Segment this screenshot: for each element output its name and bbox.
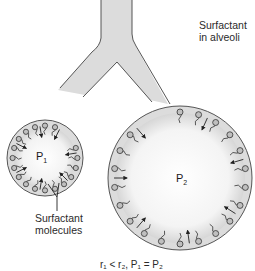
molecule-head xyxy=(32,186,37,191)
molecule-head xyxy=(242,166,248,172)
molecule-head xyxy=(69,174,74,179)
molecule-head xyxy=(52,125,57,130)
molecule-head xyxy=(112,166,118,172)
molecule-head xyxy=(242,184,248,190)
molecule-head xyxy=(117,202,123,208)
molecule-head xyxy=(10,155,15,160)
molecule-head xyxy=(52,186,57,191)
title-line-1: Surfactant xyxy=(199,19,247,31)
molecule-head xyxy=(23,182,28,187)
molecule-head xyxy=(227,218,233,224)
molecule-head xyxy=(73,145,78,150)
molecule-head xyxy=(75,155,80,160)
callout-line-1: Surfactant xyxy=(35,212,83,224)
equation-label: r₁ < r₂, P₁ = P₂ xyxy=(100,259,163,271)
molecule-head xyxy=(16,136,21,141)
p2-label: P2 xyxy=(176,172,187,186)
molecule-head xyxy=(237,148,243,154)
molecule-head xyxy=(42,123,47,128)
molecule-head xyxy=(32,125,37,130)
molecule-head xyxy=(237,202,243,208)
surfactant-molecules-label: Surfactant molecules xyxy=(35,212,83,236)
molecule-head xyxy=(177,241,183,247)
p2-subscript: 2 xyxy=(183,179,187,186)
molecule-head xyxy=(213,119,219,125)
molecule-head xyxy=(158,238,164,244)
p1-subscript: 1 xyxy=(43,157,47,164)
molecule-head xyxy=(12,165,17,170)
molecule-head xyxy=(73,165,78,170)
molecule-head xyxy=(196,112,202,118)
molecule-head xyxy=(117,148,123,154)
molecule-head xyxy=(141,231,147,237)
airway xyxy=(58,0,170,104)
molecule-head xyxy=(112,184,118,190)
molecule-head xyxy=(177,109,183,115)
p1-label: P1 xyxy=(36,150,47,164)
surfactant-in-alveoli-label: Surfactant in alveoli xyxy=(199,19,247,43)
molecule-head xyxy=(23,129,28,134)
molecule-head xyxy=(127,218,133,224)
molecule-head xyxy=(196,238,202,244)
molecule-head xyxy=(61,182,66,187)
molecule-head xyxy=(42,188,47,193)
molecule-head xyxy=(213,231,219,237)
molecule-head xyxy=(127,132,133,138)
molecule-head xyxy=(16,174,21,179)
title-line-2: in alveoli xyxy=(199,31,247,43)
callout-line-2: molecules xyxy=(35,224,83,236)
molecule-head xyxy=(12,145,17,150)
molecule-head xyxy=(227,132,233,138)
